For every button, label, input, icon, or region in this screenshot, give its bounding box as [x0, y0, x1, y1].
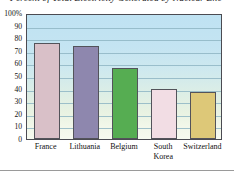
- y-axis-tick-label: 0: [0, 136, 24, 144]
- bottom-divider: [0, 170, 234, 171]
- plot-area: [26, 14, 222, 140]
- y-axis-tick-label: 70: [0, 48, 24, 56]
- bar-chart-figure: Percent of Total Electricity Generated b…: [0, 0, 234, 173]
- y-axis-tick-label: 100%: [0, 10, 24, 18]
- y-axis-tick-label: 40: [0, 86, 24, 94]
- bar: [73, 46, 99, 139]
- x-axis-tick-label: Belgium: [104, 142, 143, 152]
- y-axis-tick-label: 60: [0, 61, 24, 69]
- chart-title-strip: Percent of Total Electricity Generated b…: [0, 0, 234, 6]
- y-axis-tick-label: 20: [0, 111, 24, 119]
- y-axis-tick-label: 80: [0, 35, 24, 43]
- y-axis-tick-label: 30: [0, 98, 24, 106]
- bar: [34, 43, 60, 139]
- x-axis-tick-label: Switzerland: [183, 142, 222, 152]
- x-axis-tick-label: South Korea: [144, 142, 183, 161]
- x-axis-tick-label: Lithuania: [65, 142, 104, 152]
- bar: [151, 89, 177, 139]
- x-axis-tick-label: France: [26, 142, 65, 152]
- y-axis-tick-label: 10: [0, 124, 24, 132]
- y-axis-tick-label: 90: [0, 23, 24, 31]
- y-axis-tick-label: 50: [0, 73, 24, 81]
- x-axis: FranceLithuaniaBelgiumSouth KoreaSwitzer…: [26, 142, 222, 173]
- bar-series: [27, 15, 221, 139]
- bar: [190, 92, 216, 139]
- bar: [112, 68, 138, 139]
- chart-title: Percent of Total Electricity Generated b…: [10, 0, 230, 3]
- y-axis: 0102030405060708090100%: [0, 14, 24, 140]
